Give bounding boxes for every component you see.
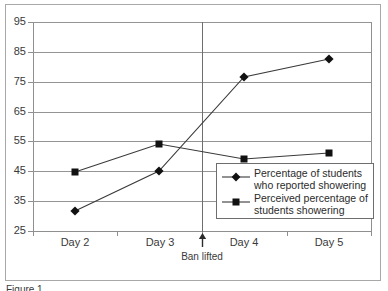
x-tick-mark-3 — [287, 231, 288, 236]
ban-lifted-label: Ban lifted — [162, 251, 242, 262]
x-axis-label-day-4: Day 4 — [212, 236, 276, 248]
y-tick-label-85: 85 — [4, 46, 26, 57]
x-tick-mark-0 — [33, 231, 34, 236]
y-tick-label-35: 35 — [4, 195, 26, 206]
x-tick-mark-4 — [371, 231, 372, 236]
chart-legend: Percentage of students who reported show… — [216, 163, 374, 219]
x-tick-mark-1 — [117, 231, 118, 236]
x-axis-label-day-2: Day 2 — [43, 236, 107, 248]
legend-label-perceived-percentage: Perceived percentage of students showeri… — [254, 192, 372, 216]
figure-root: 95 85 75 65 55 45 35 25 Day 2 Day 3 Day … — [0, 0, 388, 291]
legend-entry-reported-showering: Percentage of students who reported show… — [217, 167, 373, 192]
legend-label-reported-showering: Percentage of students who reported show… — [254, 167, 372, 191]
x-axis-label-day-5: Day 5 — [297, 236, 361, 248]
legend-entry-perceived-percentage: Perceived percentage of students showeri… — [217, 192, 373, 217]
ban-lifted-arrow-icon — [198, 233, 207, 247]
y-tick-label-95: 95 — [4, 16, 26, 27]
x-axis-label-day-3: Day 3 — [128, 236, 192, 248]
y-tick-label-25: 25 — [4, 225, 26, 236]
y-tick-label-65: 65 — [4, 106, 26, 117]
y-tick-label-75: 75 — [4, 76, 26, 87]
figure-caption: Figure 1 — [6, 284, 43, 291]
y-tick-label-45: 45 — [4, 165, 26, 176]
legend-square-icon — [222, 197, 250, 207]
legend-diamond-icon — [222, 172, 250, 182]
y-tick-label-55: 55 — [4, 135, 26, 146]
ban-lifted-line — [202, 22, 203, 232]
